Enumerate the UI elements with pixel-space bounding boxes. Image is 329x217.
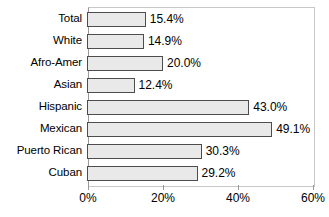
- bar-row: 12.4%: [88, 74, 313, 96]
- bar-puerto-rican: [87, 144, 202, 159]
- bar-value-hispanic: 43.0%: [253, 101, 287, 113]
- x-axis-tick-mark: [163, 185, 164, 190]
- bars-area: 15.4% 14.9% 20.0% 12.4% 43.0% 49.1% 30.3…: [88, 8, 313, 184]
- x-axis-tick-marks: [88, 185, 314, 190]
- bar-row: 14.9%: [88, 30, 313, 52]
- category-axis-labels: Total White Afro-Amer Asian Hispanic Mex…: [0, 8, 85, 184]
- x-axis-tick-label: 0%: [79, 192, 96, 204]
- bar-mexican: [87, 122, 272, 137]
- x-axis-tick-labels: 0%20%40%60%: [0, 192, 329, 210]
- bar-row: 43.0%: [88, 96, 313, 118]
- category-label-cuban: Cuban: [0, 162, 85, 184]
- x-axis-tick-label: 40%: [226, 192, 250, 204]
- category-label-mexican: Mexican: [0, 118, 85, 140]
- bar-row: 20.0%: [88, 52, 313, 74]
- bar-row: 30.3%: [88, 140, 313, 162]
- bar-value-puerto-rican: 30.3%: [206, 145, 240, 157]
- bar-asian: [87, 78, 135, 93]
- x-axis-tick-label: 60%: [301, 192, 325, 204]
- bar-chart: Total White Afro-Amer Asian Hispanic Mex…: [0, 0, 329, 217]
- bar-cuban: [87, 166, 198, 181]
- bar-value-afro-amer: 20.0%: [167, 57, 201, 69]
- category-label-white: White: [0, 30, 85, 52]
- bar-value-cuban: 29.2%: [202, 167, 236, 179]
- bar-value-white: 14.9%: [148, 35, 182, 47]
- bar-row: 49.1%: [88, 118, 313, 140]
- bar-row: 29.2%: [88, 162, 313, 184]
- x-axis-tick-label: 20%: [151, 192, 175, 204]
- x-axis-tick-mark: [238, 185, 239, 190]
- category-label-puerto-rican: Puerto Rican: [0, 140, 85, 162]
- bar-value-asian: 12.4%: [139, 79, 173, 91]
- bar-total: [87, 12, 146, 27]
- bar-afro-amer: [87, 56, 163, 71]
- x-axis-tick-mark: [313, 185, 314, 190]
- category-label-asian: Asian: [0, 74, 85, 96]
- bar-white: [87, 34, 144, 49]
- bar-value-total: 15.4%: [150, 13, 184, 25]
- bar-row: 15.4%: [88, 8, 313, 30]
- bar-value-mexican: 49.1%: [276, 123, 310, 135]
- bar-hispanic: [87, 100, 249, 115]
- category-label-afro-amer: Afro-Amer: [0, 52, 85, 74]
- x-axis-tick-mark: [88, 185, 89, 190]
- category-label-hispanic: Hispanic: [0, 96, 85, 118]
- category-label-total: Total: [0, 8, 85, 30]
